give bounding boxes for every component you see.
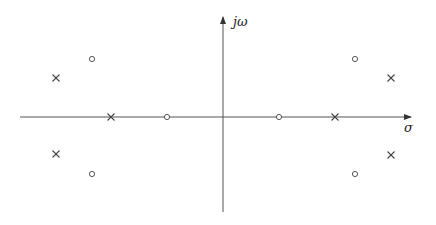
pole-marker-icon (53, 75, 60, 82)
zero-marker-icon (276, 114, 281, 119)
zero-marker-icon (352, 56, 357, 61)
zero-marker-icon (352, 171, 357, 176)
jomega-axis-label: jω (230, 14, 248, 29)
zero-marker-icon (89, 56, 94, 61)
pole-zero-plot: σ jω (0, 0, 436, 225)
zero-marker-icon (164, 114, 169, 119)
pole-marker-icon (388, 152, 395, 159)
pole-marker-icon (388, 75, 395, 82)
pole-marker-icon (53, 151, 60, 158)
sigma-axis-label: σ (404, 120, 414, 135)
zero-marker-icon (89, 171, 94, 176)
